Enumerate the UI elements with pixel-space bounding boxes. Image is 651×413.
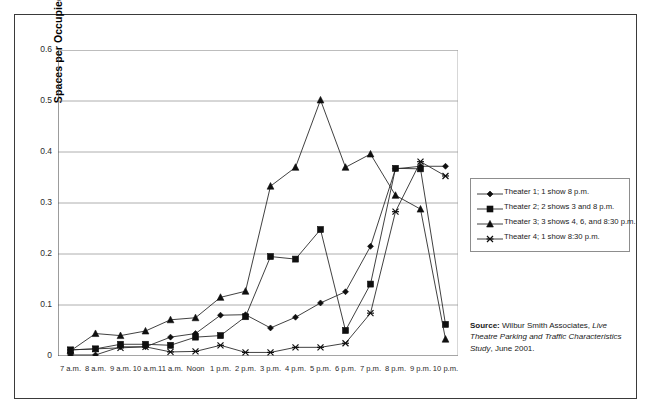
data-point-marker bbox=[192, 348, 199, 354]
data-point-marker bbox=[192, 314, 199, 321]
legend-square-icon bbox=[476, 201, 504, 213]
data-point-marker bbox=[317, 344, 324, 350]
x-tick-label: 10 p.m. bbox=[433, 364, 458, 373]
series-line bbox=[71, 166, 446, 355]
data-point-marker bbox=[443, 163, 449, 169]
data-point-marker bbox=[93, 352, 99, 356]
x-tick-label: 8 p.m. bbox=[385, 364, 406, 373]
data-point-marker bbox=[243, 314, 249, 320]
data-point-marker bbox=[167, 349, 174, 355]
legend-item-label: Theater 2; 2 shows 3 and 8 p.m. bbox=[504, 203, 614, 211]
y-tick-label: 0.6 bbox=[18, 44, 52, 54]
legend-item-label: Theater 3; 3 shows 4, 6, and 8:30 p.m. bbox=[504, 218, 636, 226]
x-tick-label: 9 a.m. bbox=[110, 364, 131, 373]
data-point-marker bbox=[293, 314, 299, 320]
source-label: Source: bbox=[470, 321, 500, 330]
data-point-marker bbox=[92, 330, 99, 337]
x-tick-label: 11 a.m. bbox=[158, 364, 183, 373]
data-point-marker bbox=[267, 349, 274, 355]
data-point-marker bbox=[168, 342, 174, 348]
data-point-marker bbox=[268, 254, 274, 260]
data-point-marker bbox=[368, 281, 374, 287]
data-point-marker bbox=[393, 165, 399, 171]
chart-legend: Theater 1; 1 show 8 p.m.Theater 2; 2 sho… bbox=[470, 178, 630, 252]
x-tick-label: 9 p.m. bbox=[410, 364, 431, 373]
data-point-marker bbox=[168, 334, 174, 340]
legend-item: Theater 1; 1 show 8 p.m. bbox=[476, 185, 624, 199]
data-point-marker bbox=[417, 206, 424, 213]
x-tick-label: 7 p.m. bbox=[360, 364, 381, 373]
data-point-marker bbox=[367, 150, 374, 157]
y-tick-label: 0.4 bbox=[18, 146, 52, 156]
data-point-marker bbox=[343, 328, 349, 334]
legend-item: Theater 2; 2 shows 3 and 8 p.m. bbox=[476, 200, 624, 214]
x-tick-label: 10 a.m. bbox=[133, 364, 158, 373]
data-point-marker bbox=[292, 164, 299, 171]
source-text-1: Wilbur Smith Associates, bbox=[500, 321, 592, 330]
data-point-marker bbox=[292, 344, 299, 350]
legend-item: Theater 3; 3 shows 4, 6, and 8:30 p.m. bbox=[476, 215, 624, 229]
data-point-marker bbox=[218, 333, 224, 339]
data-point-marker bbox=[217, 342, 224, 348]
x-tick-label: 2 p.m. bbox=[235, 364, 256, 373]
data-point-marker bbox=[367, 310, 374, 316]
y-tick-label: 0.2 bbox=[18, 248, 52, 258]
x-tick-label: 4 p.m. bbox=[285, 364, 306, 373]
series-4 bbox=[67, 159, 449, 356]
y-tick-label: 0.5 bbox=[18, 95, 52, 105]
legend-item: Theater 4; 1 show 8:30 p.m. bbox=[476, 230, 624, 244]
x-tick-label: 8 a.m. bbox=[85, 364, 106, 373]
data-point-marker bbox=[442, 173, 449, 179]
series-2 bbox=[68, 165, 449, 353]
legend-triangle-icon bbox=[476, 216, 504, 228]
data-point-marker bbox=[392, 209, 399, 215]
y-tick-label: 0.3 bbox=[18, 197, 52, 207]
data-point-marker bbox=[293, 256, 299, 262]
data-point-marker bbox=[242, 349, 249, 355]
series-3 bbox=[67, 96, 449, 354]
series-1 bbox=[68, 163, 449, 356]
legend-item-label: Theater 1; 1 show 8 p.m. bbox=[504, 188, 589, 196]
x-tick-label: 3 p.m. bbox=[260, 364, 281, 373]
x-tick-label: 5 p.m. bbox=[310, 364, 331, 373]
data-point-marker bbox=[392, 192, 399, 199]
series-line bbox=[71, 168, 446, 350]
legend-item-label: Theater 4; 1 show 8:30 p.m. bbox=[504, 233, 600, 241]
data-point-marker bbox=[368, 243, 374, 249]
plot-area: Spaces per Occupied Seat bbox=[58, 50, 458, 356]
x-tick-label: 6 p.m. bbox=[335, 364, 356, 373]
data-point-marker bbox=[268, 325, 274, 331]
legend-x-cross-icon bbox=[476, 231, 504, 243]
data-point-marker bbox=[267, 183, 274, 190]
data-point-marker bbox=[343, 289, 349, 295]
legend-diamond-icon bbox=[476, 186, 504, 198]
x-tick-label: 1 p.m. bbox=[210, 364, 231, 373]
series-line bbox=[71, 162, 446, 353]
data-point-marker bbox=[318, 227, 324, 233]
data-point-marker bbox=[342, 340, 349, 346]
figure-container: Spaces per Occupied Seat 00.10.20.30.40.… bbox=[0, 0, 651, 413]
data-point-marker bbox=[317, 96, 324, 103]
series-line bbox=[71, 100, 446, 351]
data-point-marker bbox=[142, 327, 149, 334]
data-point-marker bbox=[342, 164, 349, 171]
y-tick-label: 0 bbox=[18, 350, 52, 360]
data-point-marker bbox=[442, 336, 449, 343]
x-tick-label: Noon bbox=[186, 364, 204, 373]
line-chart-svg bbox=[58, 50, 458, 356]
y-tick-label: 0.1 bbox=[18, 299, 52, 309]
source-note: Source: Wilbur Smith Associates, Live Th… bbox=[470, 320, 630, 354]
x-tick-label: 7 a.m. bbox=[60, 364, 81, 373]
data-point-marker bbox=[242, 288, 249, 295]
data-point-marker bbox=[193, 334, 199, 340]
source-text-2: , June 2001. bbox=[490, 344, 534, 353]
